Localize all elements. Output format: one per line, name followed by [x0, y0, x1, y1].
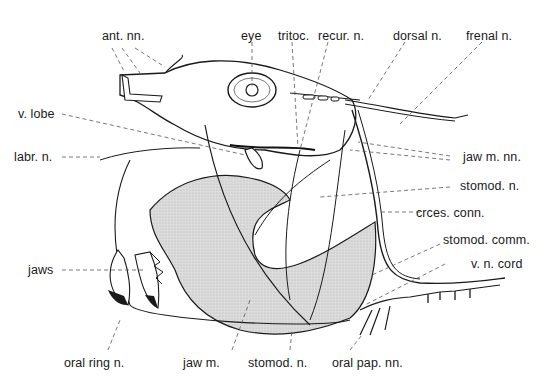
- label-eye: eye: [241, 29, 261, 43]
- illustration: [0, 0, 558, 392]
- label-v-n-cord: v. n. cord: [471, 257, 522, 271]
- label-tritoc: tritoc.: [278, 29, 309, 43]
- ventral-lobe: [245, 148, 262, 169]
- head-capsule: [120, 61, 356, 156]
- label-dorsal-n: dorsal n.: [393, 29, 442, 43]
- anatomical-diagram: ant. nn. eye tritoc. recur. n. dorsal n.…: [0, 0, 558, 392]
- jaw-muscle: [150, 175, 376, 334]
- label-frenal-n: frenal n.: [466, 29, 512, 43]
- label-oral-pap-nn: oral pap. nn.: [332, 356, 403, 370]
- label-stomod-n-bottom: stomod. n.: [248, 356, 307, 370]
- label-stomod-comm: stomod. comm.: [443, 233, 530, 247]
- label-ant-nn: ant. nn.: [102, 29, 145, 43]
- label-labr-n: labr. n.: [14, 150, 52, 164]
- label-v-lobe: v. lobe: [18, 107, 55, 121]
- label-jaws: jaws: [28, 263, 53, 277]
- label-jaw-m-nn: jaw m. nn.: [463, 150, 521, 164]
- ventral-cord-lower: [360, 285, 500, 310]
- label-recur-n: recur. n.: [318, 29, 364, 43]
- label-crces-conn: crces. conn.: [416, 206, 485, 220]
- label-oral-ring-n: oral ring n.: [64, 356, 124, 370]
- label-stomod-n-right: stomod. n.: [460, 179, 519, 193]
- label-jaw-m: jaw m.: [183, 356, 220, 370]
